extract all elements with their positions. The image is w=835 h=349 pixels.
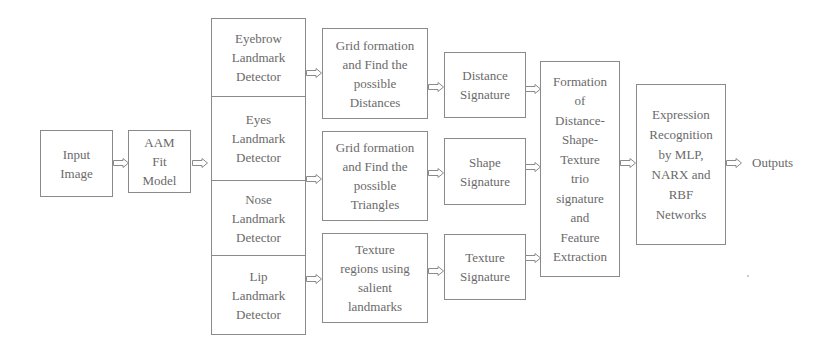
- eyes-detector-label: Eyes Landmark Detector: [232, 110, 285, 167]
- expression-recognition-box: Expression Recognition by MLP, NARX and …: [636, 84, 726, 245]
- outputs-label: Outputs: [752, 155, 793, 171]
- texture-regions-box: Texture regions using salient landmarks: [322, 233, 428, 323]
- nose-detector-label: Nose Landmark Detector: [232, 190, 285, 247]
- arrow-right-icon: [428, 82, 444, 92]
- distance-signature-label: Distance Signature: [460, 66, 510, 104]
- grid-triangles-box: Grid formation and Find the possible Tri…: [322, 131, 428, 221]
- grid-distances-box: Grid formation and Find the possible Dis…: [322, 28, 428, 119]
- eyes-detector-cell: Eyes Landmark Detector: [212, 96, 305, 180]
- scan-speck: [747, 275, 749, 277]
- aam-fit-model-box: AAM Fit Model: [128, 130, 191, 193]
- nose-detector-cell: Nose Landmark Detector: [212, 180, 305, 255]
- landmark-detector-stack: Eyebrow Landmark Detector Eyes Landmark …: [211, 18, 306, 335]
- input-image-label: Input Image: [60, 145, 92, 183]
- arrow-right-icon: [306, 174, 322, 184]
- shape-signature-label: Shape Signature: [460, 153, 510, 191]
- arrow-right-icon: [428, 168, 444, 178]
- texture-signature-box: Texture Signature: [444, 234, 526, 300]
- texture-regions-label: Texture regions using salient landmarks: [340, 240, 410, 316]
- arrow-right-icon: [525, 162, 541, 172]
- arrow-right-icon: [428, 266, 444, 276]
- input-image-box: Input Image: [40, 130, 113, 197]
- shape-signature-box: Shape Signature: [444, 138, 526, 205]
- lip-detector-label: Lip Landmark Detector: [232, 267, 285, 324]
- distance-signature-box: Distance Signature: [444, 52, 526, 118]
- arrow-right-icon: [525, 84, 541, 94]
- eyebrow-detector-label: Eyebrow Landmark Detector: [232, 29, 285, 86]
- arrow-right-icon: [620, 158, 636, 168]
- eyebrow-detector-cell: Eyebrow Landmark Detector: [212, 19, 305, 96]
- texture-signature-label: Texture Signature: [460, 248, 510, 286]
- arrow-right-icon: [726, 158, 742, 168]
- arrow-right-icon: [113, 158, 129, 168]
- formation-box: Formation of Distance- Shape- Texture tr…: [540, 61, 620, 277]
- arrow-right-icon: [192, 158, 208, 168]
- arrow-right-icon: [525, 253, 541, 263]
- formation-label: Formation of Distance- Shape- Texture tr…: [553, 72, 607, 267]
- lip-detector-cell: Lip Landmark Detector: [212, 255, 305, 335]
- aam-fit-model-label: AAM Fit Model: [143, 133, 177, 190]
- grid-distances-label: Grid formation and Find the possible Dis…: [336, 36, 414, 112]
- arrow-right-icon: [306, 68, 322, 78]
- grid-triangles-label: Grid formation and Find the possible Tri…: [336, 138, 414, 214]
- expression-recognition-label: Expression Recognition by MLP, NARX and …: [649, 105, 713, 225]
- arrow-right-icon: [306, 274, 322, 284]
